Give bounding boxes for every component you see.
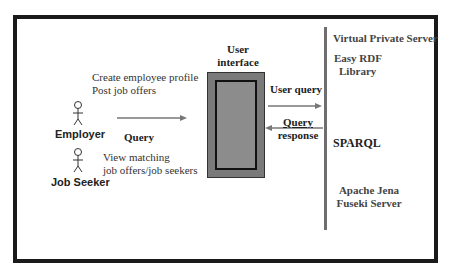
employer-action-create-profile: Create employee profile <box>92 71 198 84</box>
query-arrow-icon <box>116 114 188 122</box>
query-response-label-line2: response <box>272 129 324 142</box>
employer-actions: Create employee profile Post job offers <box>92 71 198 97</box>
fuseki-line1: Apache Jena <box>330 184 408 197</box>
server-divider <box>324 27 327 230</box>
sparql-label: SPARQL <box>333 137 381 150</box>
easy-rdf-library: Easy RDF Library <box>334 52 382 78</box>
user-interface-label-line1: User <box>210 43 266 56</box>
fuseki-server: Apache Jena Fuseki Server <box>330 184 408 210</box>
user-interface-label-line2: interface <box>210 56 266 69</box>
server-title: Virtual Private Server <box>333 32 438 45</box>
query-response-label: Query response <box>272 116 324 142</box>
job-seeker-actions: View matching job offers/job seekers <box>103 151 198 177</box>
easy-rdf-line2: Library <box>334 65 382 78</box>
actor-employer-label: Employer <box>55 128 105 140</box>
user-interface-label: User interface <box>210 43 266 69</box>
query-response-label-line1: Query <box>272 116 324 129</box>
user-query-arrow-icon <box>267 102 323 110</box>
job-seeker-action-view-matching: View matching <box>103 151 198 164</box>
fuseki-line2: Fuseki Server <box>330 197 408 210</box>
employer-stick-figure-icon <box>70 100 86 128</box>
user-interface-screen <box>215 80 257 170</box>
job-seeker-stick-figure-icon <box>70 147 86 175</box>
easy-rdf-line1: Easy RDF <box>334 52 382 65</box>
employer-action-post-offers: Post job offers <box>92 84 198 97</box>
query-label: Query <box>124 131 154 144</box>
job-seeker-action-offers-seekers: job offers/job seekers <box>103 164 198 177</box>
user-query-label: User query <box>270 83 322 96</box>
actor-job-seeker-label: Job Seeker <box>51 176 110 188</box>
